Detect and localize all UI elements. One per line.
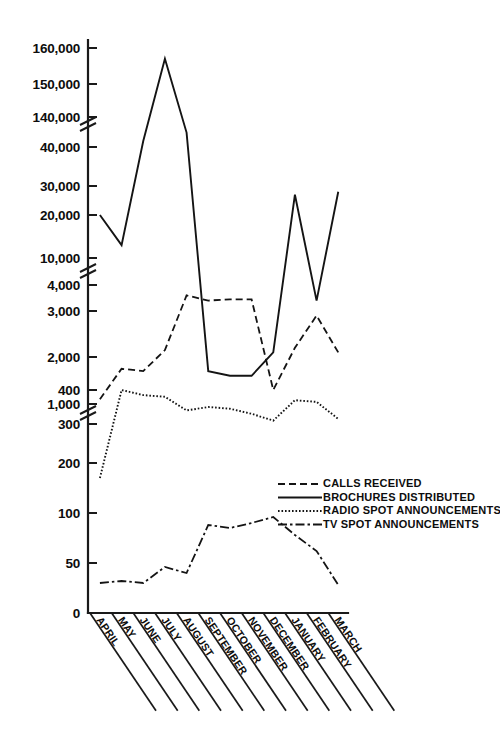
series-line-brochures-distributed <box>100 59 338 376</box>
y-tick-label: 10,000 <box>40 251 80 266</box>
chart-legend: CALLS RECEIVEDBROCHURES DISTRIBUTEDRADIO… <box>278 477 500 530</box>
legend-label: RADIO SPOT ANNOUNCEMENTS <box>323 504 500 516</box>
y-tick-label: 400 <box>58 383 80 398</box>
y-tick-label: 100 <box>58 506 80 521</box>
data-series-group <box>100 59 338 585</box>
series-line-radio-spot-announcements <box>100 390 338 478</box>
chart-container: 0501002003004001,0002,0003,0004,00010,00… <box>0 0 500 733</box>
y-tick-label: 200 <box>58 456 80 471</box>
y-tick-label: 300 <box>58 417 80 432</box>
line-chart: 0501002003004001,0002,0003,0004,00010,00… <box>0 0 500 733</box>
y-tick-label: 2,000 <box>47 350 80 365</box>
y-tick-label: 160,000 <box>33 41 80 56</box>
series-line-tv-spot-announcements <box>100 517 338 585</box>
series-line-calls-received <box>100 295 338 399</box>
y-tick-label: 3,000 <box>47 304 80 319</box>
y-tick-label: 4,000 <box>47 278 80 293</box>
legend-label: BROCHURES DISTRIBUTED <box>323 491 475 503</box>
legend-label: TV SPOT ANNOUNCEMENTS <box>323 518 479 530</box>
y-tick-labels: 0501002003004001,0002,0003,0004,00010,00… <box>33 41 80 621</box>
x-axis-categories: APRILMAYJUNEJULYAUGUSTSEPTEMBEROCTOBERNO… <box>90 613 394 711</box>
y-tick-label: 30,000 <box>40 179 80 194</box>
y-tick-label: 150,000 <box>33 77 80 92</box>
legend-label: CALLS RECEIVED <box>323 477 422 489</box>
y-tick-label: 1,000 <box>47 397 80 412</box>
y-tick-label: 0 <box>73 606 80 621</box>
y-tick-label: 40,000 <box>40 140 80 155</box>
y-tick-label: 50 <box>65 556 80 571</box>
y-tick-label: 140,000 <box>33 110 80 125</box>
y-tick-marks <box>88 48 97 613</box>
y-tick-label: 20,000 <box>40 208 80 223</box>
